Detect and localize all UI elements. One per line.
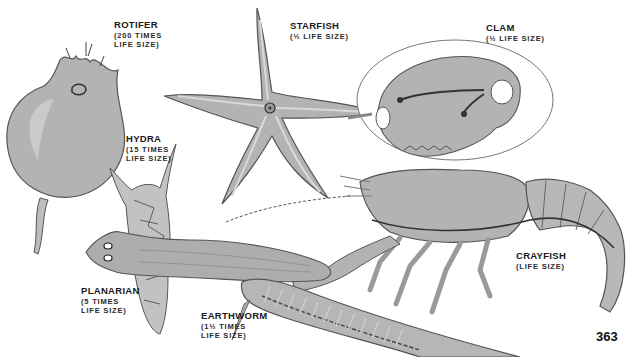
planarian-label: PLANARIAN (5 TIMES LIFE SIZE)	[81, 285, 140, 316]
earthworm-name: EARTHWORM	[201, 310, 268, 322]
hydra-label: HYDRA (15 TIMES LIFE SIZE)	[126, 133, 172, 164]
starfish-label: STARFISH (½ LIFE SIZE)	[290, 20, 349, 41]
rotifer-name: ROTIFER	[114, 19, 162, 31]
crayfish-name: CRAYFISH	[516, 250, 566, 262]
clam-illustration	[348, 40, 553, 160]
crayfish-label: CRAYFISH (LIFE SIZE)	[516, 250, 566, 271]
clam-label: CLAM (½ LIFE SIZE)	[486, 22, 545, 43]
planarian-illustration	[86, 232, 331, 282]
page-number: 363	[596, 329, 618, 344]
earthworm-scale-line2: LIFE SIZE)	[201, 331, 268, 340]
hydra-scale-line2: LIFE SIZE)	[126, 154, 172, 163]
starfish-name: STARFISH	[290, 20, 349, 32]
planarian-scale-line1: (5 TIMES	[81, 297, 140, 306]
clam-name: CLAM	[486, 22, 545, 34]
rotifer-illustration	[7, 42, 125, 254]
crayfish-scale-line1: (LIFE SIZE)	[516, 262, 566, 271]
planarian-name: PLANARIAN	[81, 285, 140, 297]
rotifer-scale-line1: (200 TIMES	[114, 31, 162, 40]
hydra-name: HYDRA	[126, 133, 172, 145]
hydra-scale-line1: (15 TIMES	[126, 145, 172, 154]
clam-scale-line1: (½ LIFE SIZE)	[486, 34, 545, 43]
earthworm-label: EARTHWORM (1½ TIMES LIFE SIZE)	[201, 310, 268, 341]
rotifer-label: ROTIFER (200 TIMES LIFE SIZE)	[114, 19, 162, 50]
starfish-scale-line1: (½ LIFE SIZE)	[290, 32, 349, 41]
rotifer-scale-line2: LIFE SIZE)	[114, 40, 162, 49]
earthworm-scale-line1: (1½ TIMES	[201, 322, 268, 331]
earthworm-illustration	[232, 279, 520, 357]
planarian-scale-line2: LIFE SIZE)	[81, 306, 140, 315]
